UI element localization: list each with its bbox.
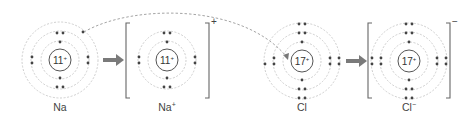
sodium-ion: + 11+ [126,16,217,98]
reaction-arrow-sodium [103,54,124,66]
sodium-valence-electron [82,31,85,34]
sodium-atom: 11+ [22,22,98,98]
chloride-ion-charge: − [452,16,458,27]
sodium-ion-label: Na+ [158,101,176,113]
right-bracket [205,23,209,98]
chloride-ion: − 17+ [368,16,458,99]
electron-transfer-arrow [84,13,289,60]
reaction-arrow-chlorine [346,55,367,67]
ionic-bond-diagram: 11+ Na + 11+ Na+ 17 [0,0,472,117]
chlorine-atom: 17+ [264,23,341,100]
sodium-ion-charge: + [211,16,217,27]
left-bracket [126,23,130,98]
chlorine-label: Cl [297,101,307,113]
chloride-ion-label: Cl− [402,101,416,113]
sodium-label: Na [53,101,67,113]
